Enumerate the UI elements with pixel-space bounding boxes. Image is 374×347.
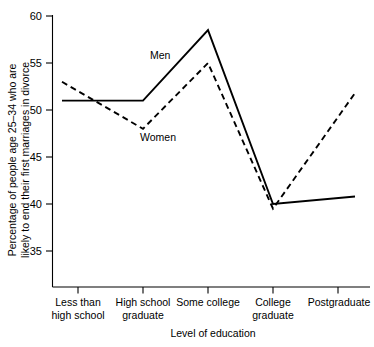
y-axis-title-line2: likely to end their first marriages in d… <box>19 62 31 258</box>
y-tick-label-50: 50 <box>30 104 42 116</box>
x-category-label-4-line1: Postgraduate <box>308 296 371 308</box>
x-category-label-0-line1: Less than <box>55 296 101 308</box>
y-tick-label-60: 60 <box>30 10 42 22</box>
y-tick-label-35: 35 <box>30 245 42 257</box>
y-tick-label-45: 45 <box>30 151 42 163</box>
chart-canvas: 60 55 50 45 40 35 Less than high school … <box>0 0 374 347</box>
series-line-men <box>62 30 355 204</box>
y-axis-title-line1: Percentage of people age 25–34 who are <box>6 64 18 257</box>
y-tick-label-55: 55 <box>30 57 42 69</box>
series-label-men: Men <box>150 49 171 61</box>
x-category-label-1-line2: graduate <box>122 309 164 321</box>
x-category-label-1-line1: High school <box>116 296 171 308</box>
y-tick-label-40: 40 <box>30 198 42 210</box>
divorce-likelihood-line-chart: 60 55 50 45 40 35 Less than high school … <box>0 0 374 347</box>
series-label-women: Women <box>140 131 176 143</box>
x-category-label-3-line2: graduate <box>252 309 294 321</box>
x-axis-title: Level of education <box>170 327 255 339</box>
x-category-label-2-line1: Some college <box>176 296 240 308</box>
series-line-women <box>62 63 355 209</box>
x-category-label-3-line1: College <box>255 296 291 308</box>
x-category-label-0-line2: high school <box>51 309 104 321</box>
